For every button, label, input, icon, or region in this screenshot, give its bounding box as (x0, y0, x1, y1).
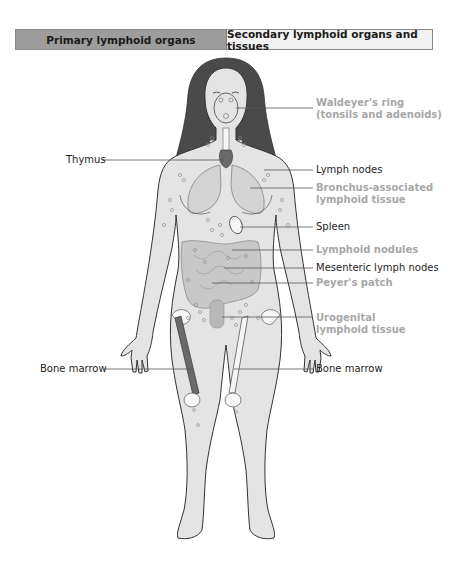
label-lymphoid-nodules: Lymphoid nodules (316, 244, 418, 256)
label-bone-marrow-left: Bone marrow (40, 363, 107, 375)
bladder (210, 300, 224, 328)
label-spleen: Spleen (316, 221, 350, 233)
label-peyers-patch: Peyer's patch (316, 277, 393, 289)
label-urogenital-line2: lymphoid tissue (316, 324, 406, 336)
label-mesenteric-lymph-nodes: Mesenteric lymph nodes (316, 262, 439, 274)
knee-left (184, 393, 200, 407)
label-bronchus-associated-lymphoid-tissue: Bronchus-associated lymphoid tissue (316, 182, 433, 206)
label-lymph-nodes: Lymph nodes (316, 164, 382, 176)
label-bronchus-line2: lymphoid tissue (316, 194, 433, 206)
label-urogenital-line1: Urogenital (316, 312, 406, 324)
label-bronchus-line1: Bronchus-associated (316, 182, 433, 194)
knee-right (225, 393, 241, 407)
trachea (223, 128, 229, 152)
label-urogenital-lymphoid-tissue: Urogenital lymphoid tissue (316, 312, 406, 336)
label-bone-marrow-right: Bone marrow (316, 363, 383, 375)
label-waldeyers-ring-line2: (tonsils and adenoids) (316, 109, 442, 121)
label-waldeyers-ring-line1: Waldeyer's ring (316, 97, 442, 109)
label-waldeyers-ring: Waldeyer's ring (tonsils and adenoids) (316, 97, 442, 121)
label-thymus: Thymus (66, 154, 106, 166)
